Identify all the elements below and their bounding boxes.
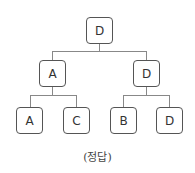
connector [76, 95, 77, 107]
connector [146, 87, 147, 95]
connector [52, 87, 53, 95]
level1-node-d: D [133, 60, 160, 87]
connector [146, 51, 147, 60]
connector [52, 51, 147, 52]
level1-node-a: A [39, 60, 66, 87]
leaf-node-c: C [63, 107, 90, 134]
connector [169, 95, 170, 107]
connector [30, 95, 77, 96]
connector [99, 44, 100, 51]
leaf-node-a: A [16, 107, 43, 134]
connector [123, 95, 124, 107]
connector [30, 95, 31, 107]
connector [123, 95, 170, 96]
leaf-node-b: B [110, 107, 137, 134]
leaf-node-d: D [156, 107, 183, 134]
caption: (정답) [0, 148, 195, 164]
root-node: D [86, 17, 113, 44]
connector [52, 51, 53, 60]
